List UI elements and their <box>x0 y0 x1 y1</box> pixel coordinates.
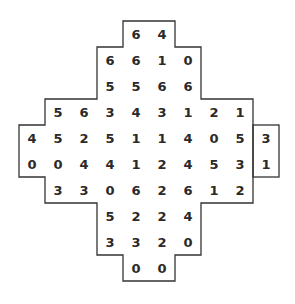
grid-cell: 0 <box>175 47 201 73</box>
grid-cell: 4 <box>149 21 175 47</box>
grid-cell: 0 <box>123 255 149 281</box>
grid-cell: 1 <box>253 151 279 177</box>
grid-cell: 4 <box>123 99 149 125</box>
grid-cell: 0 <box>45 151 71 177</box>
grid-cell: 3 <box>253 125 279 151</box>
grid-cell: 5 <box>227 125 253 151</box>
puzzle-board: 6466105566563431214525114053004412453133… <box>0 0 295 304</box>
grid-cell: 2 <box>149 177 175 203</box>
grid-cell: 4 <box>175 125 201 151</box>
grid-cell: 0 <box>19 151 45 177</box>
grid-cell: 5 <box>45 99 71 125</box>
grid-cell: 5 <box>97 125 123 151</box>
grid-cell: 6 <box>149 73 175 99</box>
grid-cell: 0 <box>201 125 227 151</box>
grid-cell: 2 <box>149 229 175 255</box>
grid-cell: 1 <box>123 151 149 177</box>
grid-cell: 2 <box>71 125 97 151</box>
grid-cell: 6 <box>71 99 97 125</box>
grid-cell: 0 <box>149 255 175 281</box>
grid-cell: 5 <box>45 125 71 151</box>
grid-cell: 5 <box>97 203 123 229</box>
grid-cell: 4 <box>71 151 97 177</box>
grid-cell: 0 <box>175 229 201 255</box>
grid-cell: 3 <box>97 99 123 125</box>
grid-cell: 6 <box>123 47 149 73</box>
grid-cell: 2 <box>201 99 227 125</box>
grid-cell: 3 <box>97 229 123 255</box>
grid-cell: 2 <box>149 203 175 229</box>
grid-cell: 0 <box>97 177 123 203</box>
grid-cell: 2 <box>149 151 175 177</box>
grid-cell: 5 <box>201 151 227 177</box>
grid-cell: 1 <box>149 125 175 151</box>
grid-cell: 4 <box>175 203 201 229</box>
grid-cell: 6 <box>175 73 201 99</box>
grid-cell: 3 <box>227 151 253 177</box>
grid-cell: 1 <box>227 99 253 125</box>
grid-cell: 4 <box>175 151 201 177</box>
grid-cell: 6 <box>123 177 149 203</box>
grid-cell: 5 <box>123 73 149 99</box>
grid-cell: 6 <box>123 21 149 47</box>
grid-cell: 2 <box>123 203 149 229</box>
grid-cell: 4 <box>19 125 45 151</box>
grid-cell: 3 <box>45 177 71 203</box>
grid-cell: 6 <box>175 177 201 203</box>
grid-cell: 1 <box>201 177 227 203</box>
grid-cell: 1 <box>149 47 175 73</box>
grid-cell: 3 <box>123 229 149 255</box>
grid-cell: 3 <box>71 177 97 203</box>
grid-cell: 1 <box>123 125 149 151</box>
grid-cell: 2 <box>227 177 253 203</box>
grid-cell: 4 <box>97 151 123 177</box>
grid-cell: 1 <box>175 99 201 125</box>
grid-cell: 6 <box>97 47 123 73</box>
grid-cell: 3 <box>149 99 175 125</box>
grid-cell: 5 <box>97 73 123 99</box>
